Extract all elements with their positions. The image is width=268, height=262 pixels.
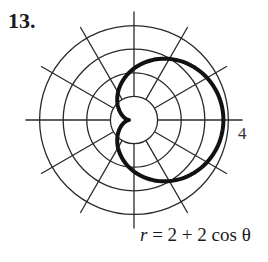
- equation-label: r = 2 + 2 cos θ: [140, 224, 251, 246]
- grid-ray: [41, 66, 114, 108]
- equation-rhs: = 2 + 2 cos θ: [152, 224, 251, 245]
- grid-ray: [41, 132, 114, 174]
- grid-ray: [80, 140, 122, 213]
- polar-graph: [0, 0, 268, 262]
- equation-lhs: r: [140, 224, 147, 245]
- polar-grid: [25, 11, 242, 228]
- grid-ray: [80, 27, 122, 100]
- radius-tick-label: 4: [238, 124, 247, 144]
